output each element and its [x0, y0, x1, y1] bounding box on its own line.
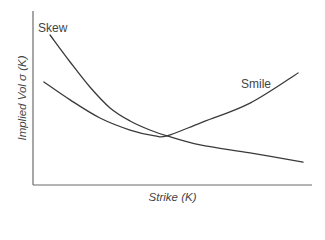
skew-annotation: Skew [38, 21, 67, 35]
y-axis-label: Implied Vol σ (K) [16, 55, 28, 140]
smile-annotation: Smile [241, 77, 271, 91]
skew-curve [50, 35, 303, 162]
x-axis-label: Strike (K) [149, 191, 197, 203]
